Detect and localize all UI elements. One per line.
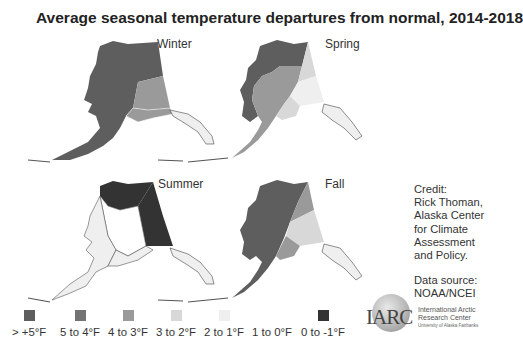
legend-item: 4 to 3°F [108,310,148,338]
legend-label: 4 to 3°F [108,326,148,338]
season-label-fall: Fall [325,177,344,191]
source-line: Data source: [414,274,484,287]
legend-item: 2 to 1°F [204,310,244,338]
credit-line: Alaska Center [414,209,484,222]
logo-line: International Arctic [418,306,478,314]
legend-item: 0 to -1°F [300,310,346,338]
legend-swatch [75,310,86,321]
legend-label: 2 to 1°F [204,326,244,338]
page-title: Average seasonal temperature departures … [36,9,523,27]
map-panel-winter [8,36,238,166]
legend-swatch [123,310,134,321]
legend-item: 3 to 2°F [156,310,196,338]
legend-item: > +5°F [12,310,46,338]
season-label-summer: Summer [158,177,203,191]
legend-label: 1 to 0°F [252,326,292,338]
logo-text: International Arctic Research Center Uni… [418,306,478,330]
legend-label: > +5°F [12,326,46,338]
legend-label: 3 to 2°F [156,326,196,338]
legend-label: 0 to -1°F [300,326,346,338]
season-label-spring: Spring [325,37,360,51]
credit-line: and Policy. [414,249,484,262]
map-panel-summer [8,176,238,306]
logo-line: University of Alaska Fairbanks [418,322,478,330]
map-panel-fall [232,176,412,306]
legend-item: 1 to 0°F [252,310,292,338]
legend-swatch [318,310,329,321]
legend-swatch [171,310,182,321]
legend-label: 5 to 4°F [60,326,100,338]
credit-line: Credit: [414,183,484,196]
iarc-logo: IARC International Arctic Research Cente… [366,294,484,338]
legend: > +5°F 5 to 4°F 4 to 3°F 3 to 2°F 2 to 1… [12,310,352,346]
legend-swatch [219,310,230,321]
legend-swatch [24,310,35,321]
legend-item: 5 to 4°F [60,310,100,338]
legend-swatch [267,310,278,321]
credit-block: Credit: Rick Thoman, Alaska Center for C… [414,183,484,301]
season-label-winter: Winter [157,37,192,51]
logo-mark: IARC [366,305,412,330]
credit-line: for Climate [414,223,484,236]
credit-line: Rick Thoman, [414,196,484,209]
map-panel-spring [232,36,412,166]
logo-line: Research Center [418,314,478,322]
credit-line: Assessment [414,236,484,249]
